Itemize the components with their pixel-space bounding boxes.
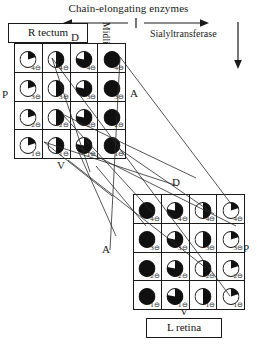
circled-minus-icon: ⊖ [118,93,124,101]
grid-cell-label: 1⊖ [59,151,69,158]
grid-cell-label: 1⊖ [206,302,216,309]
grid-cell-label: 2⊖ [234,273,244,280]
circled-minus-icon: ⊖ [209,215,215,223]
grid-cell[interactable]: 1⊖ [217,281,244,309]
grid-cell[interactable]: 3⊖ [15,73,42,101]
grid-cell[interactable]: 1⊖ [43,130,70,158]
grid-cell[interactable]: 2⊖ [162,253,189,281]
grid-cell[interactable]: 4⊖ [98,44,125,72]
circled-minus-icon: ⊖ [154,272,160,280]
tectum-axis-posterior: P [2,88,8,100]
grid-cell-label: 4⊖ [31,65,41,72]
grid-cell[interactable]: 2⊖ [190,253,217,281]
circled-minus-icon: ⊖ [209,272,215,280]
grid-cell[interactable]: 4⊖ [43,44,70,72]
grid-cell-label: 1⊖ [87,151,97,158]
grid-cell[interactable]: 2⊖ [217,253,244,281]
grid-cell-label: 2⊖ [206,273,216,280]
circled-minus-icon: ⊖ [118,150,124,158]
grid-cell[interactable]: 3⊖ [98,73,125,101]
grid-cell-label: 1⊖ [150,302,160,309]
circled-minus-icon: ⊖ [35,150,41,158]
sialyltransferase-label: Sialyltransferase [150,28,217,39]
circled-minus-icon: ⊖ [237,215,243,223]
circled-minus-icon: ⊖ [237,272,243,280]
circled-minus-icon: ⊖ [35,64,41,72]
grid-cell[interactable]: 2⊖ [98,102,125,130]
grid-cell[interactable]: 1⊖ [15,130,42,158]
circled-minus-icon: ⊖ [90,150,96,158]
grid-cell[interactable]: 4⊖ [134,195,161,223]
circled-minus-icon: ⊖ [154,301,160,309]
circled-minus-icon: ⊖ [182,215,188,223]
circled-minus-icon: ⊖ [118,121,124,129]
grid-cell[interactable]: 1⊖ [190,281,217,309]
tectum-grid: 4⊖4⊖4⊖4⊖3⊖3⊖3⊖3⊖2⊖2⊖2⊖2⊖1⊖1⊖1⊖1⊖ [14,43,126,159]
grid-cell-label: 4⊖ [150,216,160,223]
circled-minus-icon: ⊖ [182,301,188,309]
diagram-canvas: Chain-elongating enzymes Midline Sialylt… [0,0,257,344]
retina-axis-dorsal: D [172,176,180,188]
circled-minus-icon: ⊖ [209,244,215,252]
grid-cell-label: 3⊖ [31,94,41,101]
circled-minus-icon: ⊖ [237,244,243,252]
circled-minus-icon: ⊖ [35,121,41,129]
grid-cell-label: 4⊖ [178,216,188,223]
circled-minus-icon: ⊖ [63,93,69,101]
grid-cell[interactable]: 4⊖ [190,195,217,223]
grid-cell-label: 1⊖ [178,302,188,309]
circled-minus-icon: ⊖ [90,121,96,129]
grid-cell-label: 3⊖ [87,94,97,101]
grid-cell-label: 4⊖ [59,65,69,72]
grid-cell[interactable]: 2⊖ [134,253,161,281]
grid-cell[interactable]: 3⊖ [190,224,217,252]
grid-cell-label: 1⊖ [31,151,41,158]
circled-minus-icon: ⊖ [90,64,96,72]
grid-cell[interactable]: 1⊖ [162,281,189,309]
grid-cell-label: 3⊖ [178,245,188,252]
circled-minus-icon: ⊖ [209,301,215,309]
grid-cell-label: 3⊖ [150,245,160,252]
grid-cell[interactable]: 3⊖ [71,73,98,101]
grid-cell[interactable]: 3⊖ [43,73,70,101]
header-title: Chain-elongating enzymes [0,2,257,14]
grid-cell[interactable]: 3⊖ [134,224,161,252]
grid-cell[interactable]: 4⊖ [162,195,189,223]
grid-cell[interactable]: 1⊖ [71,130,98,158]
grid-cell[interactable]: 1⊖ [98,130,125,158]
retina-axis-anterior: A [102,243,110,255]
grid-cell[interactable]: 2⊖ [71,102,98,130]
grid-cell[interactable]: 3⊖ [162,224,189,252]
grid-cell-label: 3⊖ [206,245,216,252]
l-retina-label-box: L retina [146,318,222,338]
tectum-axis-ventral: V [57,159,65,171]
grid-cell-label: 2⊖ [87,122,97,129]
grid-cell-label: 3⊖ [115,94,125,101]
grid-cell-label: 4⊖ [115,65,125,72]
circled-minus-icon: ⊖ [63,64,69,72]
grid-cell-label: 1⊖ [234,302,244,309]
retina-grid: 4⊖4⊖4⊖4⊖3⊖3⊖3⊖3⊖2⊖2⊖2⊖2⊖1⊖1⊖1⊖1⊖ [133,194,245,310]
circled-minus-icon: ⊖ [63,121,69,129]
circled-minus-icon: ⊖ [154,215,160,223]
grid-cell-label: 3⊖ [59,94,69,101]
grid-cell-label: 2⊖ [150,273,160,280]
grid-cell[interactable]: 4⊖ [217,195,244,223]
grid-cell-label: 4⊖ [206,216,216,223]
grid-cell-label: 2⊖ [31,122,41,129]
grid-cell[interactable]: 1⊖ [134,281,161,309]
grid-cell[interactable]: 4⊖ [71,44,98,72]
grid-cell-label: 3⊖ [234,245,244,252]
circled-minus-icon: ⊖ [35,93,41,101]
grid-cell[interactable]: 2⊖ [43,102,70,130]
grid-cell[interactable]: 4⊖ [15,44,42,72]
circled-minus-icon: ⊖ [118,64,124,72]
grid-cell-label: 4⊖ [87,65,97,72]
grid-cell[interactable]: 2⊖ [15,102,42,130]
circled-minus-icon: ⊖ [63,150,69,158]
grid-cell[interactable]: 3⊖ [217,224,244,252]
circled-minus-icon: ⊖ [237,301,243,309]
grid-cell-label: 1⊖ [115,151,125,158]
arrow-down-icon [232,22,244,70]
circled-minus-icon: ⊖ [182,272,188,280]
